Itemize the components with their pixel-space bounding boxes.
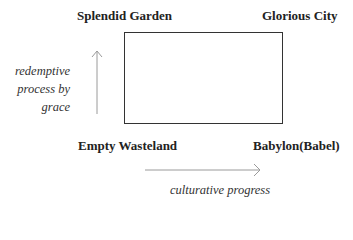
up-arrow-icon	[92, 51, 102, 114]
right-arrow-icon	[145, 164, 260, 176]
horizontal-axis-label: culturative progress	[170, 181, 270, 199]
